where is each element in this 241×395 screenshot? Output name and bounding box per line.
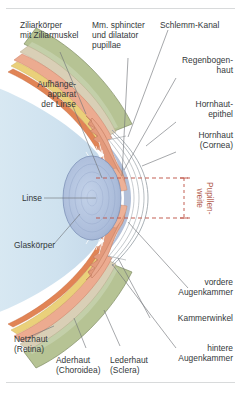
label-regenbogenhaut: Regenbogen- haut [143, 55, 233, 75]
label-hornhaut-cornea: Hornhaut (Cornea) [143, 130, 233, 150]
label-hintere-augenkammer: hintere Augenkammer [133, 343, 233, 363]
eye-anatomy-figure: Ziliarkörper mit Ziliarmuskel Mm. sphinc… [0, 0, 241, 395]
label-kammerwinkel: Kammerwinkel [133, 313, 233, 323]
label-schlemm-kanal: Schlemm-Kanal [160, 20, 219, 30]
label-aderhaut-choroidea: Aderhaut (Choroidea) [56, 355, 100, 375]
label-hornhaut-epithel: Hornhaut- epithel [143, 99, 233, 119]
label-sphincter-dilatator: Mm. sphincter und dilatator pupillae [92, 20, 145, 51]
label-linse: Linse [2, 193, 42, 203]
label-aufhaengeapparat-der-linse: Aufhänge- apparat der Linse [6, 79, 76, 110]
label-glaskoerper: Glaskörper [14, 240, 55, 250]
label-netzhaut-retina: Netzhaut (Retina) [14, 334, 48, 354]
label-pupillenweite: Pupillen- weite [195, 176, 215, 220]
label-lederhaut-sclera: Lederhaut (Sclera) [110, 355, 148, 375]
label-ziliarkoerper: Ziliarkörper mit Ziliarmuskel [20, 20, 78, 40]
label-vordere-augenkammer: vordere Augenkammer [133, 277, 233, 297]
